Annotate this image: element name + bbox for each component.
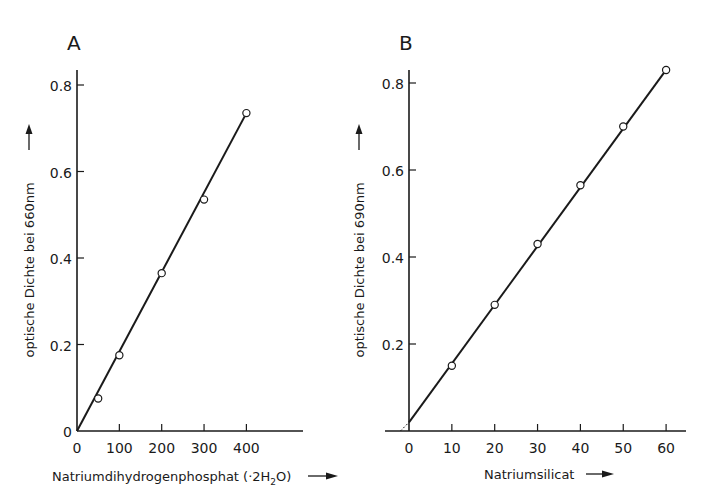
data-point	[243, 110, 250, 117]
data-point	[116, 352, 123, 359]
data-point	[200, 196, 207, 203]
x-tick-label: 50	[614, 440, 632, 456]
y-tick-label: 0.2	[50, 338, 72, 354]
data-point	[448, 362, 455, 369]
y-tick-label: 0.6	[382, 163, 404, 179]
arrow-head-icon	[356, 124, 363, 134]
x-tick-label: 60	[657, 440, 675, 456]
y-axis-title: optische Dichte bei 660nm	[22, 182, 37, 357]
x-tick-label: 100	[106, 440, 133, 456]
arrow-head-icon	[602, 471, 614, 478]
data-point	[620, 123, 627, 130]
x-tick-label: 20	[486, 440, 504, 456]
data-point	[491, 301, 498, 308]
arrow-head-icon	[26, 124, 33, 134]
panel-b: B0.20.40.60.80102030405060optische Dicht…	[352, 31, 686, 482]
y-tick-label: 0.4	[382, 250, 404, 266]
y-axis-title: optische Dichte bei 690nm	[352, 182, 367, 357]
x-tick-label: 30	[529, 440, 547, 456]
x-axis-title: Natriumdihydrogenphosphat (·2H2O)	[52, 469, 291, 487]
panel-label: A	[67, 31, 81, 55]
x-tick-label: 0	[405, 440, 414, 456]
y-tick-label: 0.8	[50, 78, 72, 94]
data-point	[95, 395, 102, 402]
panel-label: B	[399, 31, 413, 55]
extrapolation-line	[400, 422, 409, 431]
x-tick-label: 10	[443, 440, 461, 456]
x-axis-title: Natriumsilicat	[484, 467, 574, 482]
data-point	[158, 270, 165, 277]
x-tick-label: 400	[233, 440, 260, 456]
x-axis-title-end: O)	[276, 469, 291, 484]
y-tick-label: 0.8	[382, 76, 404, 92]
x-tick-label: 300	[191, 440, 218, 456]
panel-a: A00.20.40.60.80100200300400optische Dich…	[22, 31, 338, 487]
x-tick-label: 200	[148, 440, 175, 456]
y-tick-label: 0.4	[50, 251, 72, 267]
data-point	[534, 240, 541, 247]
x-tick-label: 40	[571, 440, 589, 456]
x-axis-title-main: Natriumdihydrogenphosphat (·2H	[52, 469, 270, 484]
arrow-head-icon	[326, 473, 338, 480]
y-tick-label: 0.2	[382, 337, 404, 353]
x-tick-label: 0	[73, 440, 82, 456]
data-point	[577, 182, 584, 189]
figure: A00.20.40.60.80100200300400optische Dich…	[0, 0, 709, 502]
data-point	[663, 66, 670, 73]
y-tick-label: 0.6	[50, 165, 72, 181]
y-tick-label: 0	[63, 424, 72, 440]
